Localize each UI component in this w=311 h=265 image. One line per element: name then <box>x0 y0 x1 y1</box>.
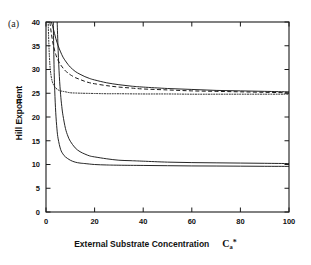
y-tick-label: 10 <box>32 160 40 169</box>
y-axis-symbol: n <box>16 96 21 106</box>
figure-panel-a: (a) Hill Exponent n External Substrate C… <box>0 0 311 265</box>
panel-label: (a) <box>8 18 19 29</box>
y-tick-label: 15 <box>32 137 40 146</box>
series-curve-3-dotted <box>48 22 289 94</box>
y-tick-label: 25 <box>32 89 40 98</box>
series-curve-2-dashed <box>50 22 289 93</box>
x-tick-label: 20 <box>90 217 98 226</box>
x-tick-label: 60 <box>188 217 196 226</box>
y-tick-label: 35 <box>32 42 40 51</box>
x-axis-symbol-sup: * <box>233 238 237 247</box>
x-tick-label: 0 <box>44 217 48 226</box>
x-tick-label: 40 <box>139 217 147 226</box>
x-axis-label-text: External Substrate Concentration <box>74 239 209 249</box>
y-tick-label: 0 <box>36 208 40 217</box>
y-tick-label: 5 <box>36 184 40 193</box>
x-tick-label: 80 <box>236 217 244 226</box>
plot-area: 0204060801000510152025303540 <box>0 0 311 265</box>
x-axis-symbol-base: C <box>222 238 229 249</box>
y-tick-label: 20 <box>32 113 40 122</box>
plot-frame <box>46 22 289 212</box>
y-tick-label: 30 <box>32 65 40 74</box>
x-axis-symbol: Ca* <box>222 238 236 250</box>
y-axis-label: Hill Exponent <box>14 53 24 173</box>
x-tick-label: 100 <box>283 217 296 226</box>
y-tick-label: 40 <box>32 18 40 27</box>
series-curve-1-solid-upper <box>51 22 289 92</box>
x-axis-label: External Substrate ConcentrationCa* <box>0 238 311 250</box>
series-curve-4-solid-mid <box>57 22 289 164</box>
